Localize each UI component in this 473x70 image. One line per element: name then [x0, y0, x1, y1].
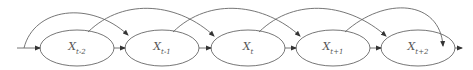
label-x-t-minus-1: Xt-1 — [153, 40, 170, 55]
skip-edge-x-t-to-x-t-plus-2 — [259, 8, 386, 36]
label-base: X — [68, 40, 76, 53]
skip-edge-x-t-minus-2-to-x-t — [88, 8, 214, 36]
label-x-t-plus-1: Xt+1 — [323, 40, 344, 55]
label-x-t-plus-2: Xt+2 — [408, 40, 429, 55]
label-subscript: t — [251, 48, 254, 56]
markov-chain-diagram: Xt-2 Xt-1 Xt Xt+1 Xt+2 — [0, 0, 473, 70]
label-subscript: t+2 — [415, 48, 428, 56]
diagram-canvas — [0, 0, 473, 70]
label-x-t: Xt — [243, 40, 254, 55]
label-base: X — [408, 40, 416, 53]
label-subscript: t-2 — [76, 48, 86, 56]
label-base: X — [323, 40, 331, 53]
skip-edge-x-t-minus-1-to-x-t-plus-1 — [173, 8, 300, 36]
label-base: X — [243, 40, 251, 53]
label-x-t-minus-2: Xt-2 — [68, 40, 85, 55]
label-subscript: t+1 — [330, 48, 343, 56]
label-subscript: t-1 — [161, 48, 171, 56]
label-base: X — [153, 40, 161, 53]
